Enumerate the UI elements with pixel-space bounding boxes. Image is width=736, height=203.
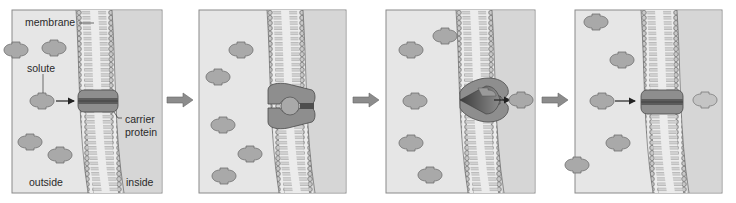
panel-1: membrane solute carrier protein outside … xyxy=(4,10,162,193)
label-outside: outside xyxy=(29,176,63,188)
label-carrier-line1: carrier xyxy=(125,113,155,125)
carrier-protein xyxy=(641,90,683,114)
label-solute: solute xyxy=(27,62,55,74)
panel-2 xyxy=(199,10,346,193)
step-arrow-3 xyxy=(542,93,568,107)
label-inside: inside xyxy=(126,176,154,188)
panel-4 xyxy=(565,10,722,193)
label-carrier-line2: protein xyxy=(125,126,157,138)
step-arrow-1 xyxy=(167,93,193,107)
carrier-transport-diagram: membrane solute carrier protein outside … xyxy=(0,0,736,203)
carrier-protein xyxy=(78,90,118,112)
label-membrane: membrane xyxy=(25,16,75,28)
panel-3 xyxy=(386,10,535,193)
step-arrow-2 xyxy=(353,93,379,107)
